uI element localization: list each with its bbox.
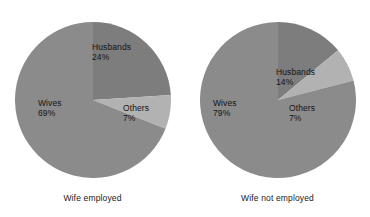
slice-label-wives: Wives 69%: [38, 98, 62, 118]
slice-label-wives-pct: 69%: [38, 108, 62, 118]
slice-label-others: Others 7%: [123, 103, 149, 123]
slice-label-wives-name: Wives: [213, 98, 237, 108]
slice-label-others-pct: 7%: [289, 113, 315, 123]
slice-label-husbands-name: Husbands: [276, 67, 315, 77]
slice-label-wives: Wives 79%: [213, 98, 237, 118]
slice-label-husbands-pct: 14%: [276, 77, 315, 87]
slice-label-others-pct: 7%: [123, 113, 149, 123]
slice-label-others-name: Others: [289, 103, 315, 113]
chart-panel-wife-not-employed: Husbands 14% Wives 79% Others 7% Wife no…: [185, 0, 370, 217]
slice-label-husbands: Husbands 14%: [276, 67, 315, 87]
chart-panel-wife-employed: Husbands 24% Wives 69% Others 7% Wife em…: [0, 0, 185, 217]
slice-label-others-name: Others: [123, 103, 149, 113]
slice-label-wives-name: Wives: [38, 98, 62, 108]
slice-label-husbands: Husbands 24%: [92, 42, 131, 62]
slice-label-others: Others 7%: [289, 103, 315, 123]
slice-label-husbands-name: Husbands: [92, 42, 131, 52]
chart-caption-left: Wife employed: [0, 193, 185, 203]
slice-label-husbands-pct: 24%: [92, 52, 131, 62]
chart-caption-right: Wife not employed: [185, 193, 370, 203]
pie-chart-figure: Husbands 24% Wives 69% Others 7% Wife em…: [0, 0, 370, 217]
slice-label-wives-pct: 79%: [213, 108, 237, 118]
